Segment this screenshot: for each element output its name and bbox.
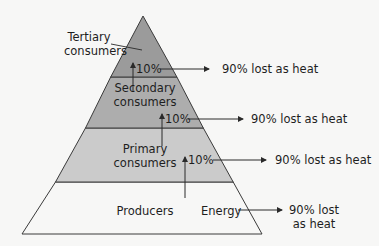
energy-loss-line1: 90% lost — [284, 203, 344, 217]
percent-secondary: 10% — [165, 112, 191, 126]
label-secondary-line2: consumers — [110, 95, 180, 109]
label-producers-line1: Producers — [110, 204, 180, 218]
label-tertiary-line1: Tertiary — [64, 30, 114, 44]
percent-tertiary: 10% — [136, 62, 162, 76]
energy-loss-line2: as heat — [284, 217, 344, 231]
label-tertiary-line2: consumers — [64, 44, 114, 58]
label-secondary-line1: Secondary — [110, 81, 180, 95]
loss-tertiary: 90% lost as heat — [222, 62, 318, 76]
percent-primary: 10% — [188, 153, 214, 167]
label-secondary: Secondary consumers — [110, 81, 180, 109]
label-primary: Primary consumers — [110, 142, 180, 170]
label-primary-line1: Primary — [110, 142, 180, 156]
label-tertiary: Tertiary consumers — [64, 30, 114, 58]
label-producers: Producers — [110, 204, 180, 218]
label-primary-line2: consumers — [110, 156, 180, 170]
loss-secondary: 90% lost as heat — [251, 112, 347, 126]
energy-loss: 90% lost as heat — [284, 203, 344, 231]
loss-primary: 90% lost as heat — [275, 153, 371, 167]
energy-label: Energy — [201, 204, 241, 218]
